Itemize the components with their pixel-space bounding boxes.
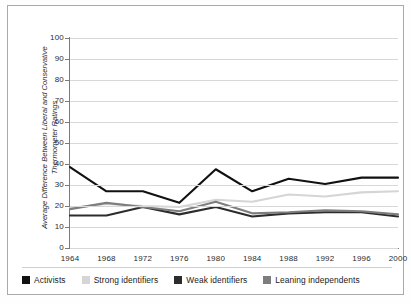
legend-swatch-icon (174, 276, 182, 284)
legend-label: Strong identifiers (94, 275, 159, 285)
gridline (70, 122, 398, 123)
legend-item[interactable]: Leaning independents (263, 275, 359, 285)
legend-item[interactable]: Strong identifiers (82, 275, 159, 285)
gridline (70, 143, 398, 144)
legend-label: Activists (34, 275, 66, 285)
legend-item[interactable]: Activists (22, 275, 66, 285)
chart-figure: Average Difference Between Liberal and C… (0, 0, 411, 304)
legend-swatch-icon (22, 276, 30, 284)
y-axis-tick-mark (65, 80, 69, 81)
y-axis-tick-mark (65, 143, 69, 144)
y-axis-tick-label: 90 (30, 55, 64, 63)
gridline (70, 248, 398, 249)
y-axis-tick-label: 100 (30, 34, 64, 42)
y-axis-tick-mark (65, 164, 69, 165)
y-axis-tick-label: 70 (30, 97, 64, 105)
x-axis-tick-label: 1984 (232, 254, 272, 263)
y-axis-tick-label: 20 (30, 202, 64, 210)
gridline (70, 164, 398, 165)
y-axis-tick-label: 10 (30, 223, 64, 231)
x-axis-tick-label: 1988 (269, 254, 309, 263)
gridline (70, 38, 398, 39)
y-axis-tick-mark (65, 206, 69, 207)
x-axis-tick-label: 1992 (305, 254, 345, 263)
legend-label: Weak identifiers (186, 275, 247, 285)
gridline (70, 206, 398, 207)
x-axis-tick-label: 2000 (378, 254, 411, 263)
chart-legend: ActivistsStrong identifiersWeak identifi… (22, 272, 392, 288)
gridline (70, 59, 398, 60)
y-axis-tick-mark (65, 38, 69, 39)
y-axis-tick-label: 0 (30, 244, 64, 252)
y-axis-tick-mark (65, 185, 69, 186)
y-axis-tick-mark (65, 227, 69, 228)
x-axis-tick-label: 1976 (159, 254, 199, 263)
y-axis-tick-label: 30 (30, 181, 64, 189)
y-axis-tick-mark (65, 101, 69, 102)
y-axis-tick-mark (65, 59, 69, 60)
legend-item[interactable]: Weak identifiers (174, 275, 247, 285)
gridline (70, 80, 398, 81)
y-axis-tick-mark (65, 248, 69, 249)
x-axis-tick-label: 1964 (50, 254, 90, 263)
plot-area (70, 38, 398, 248)
legend-label: Leaning independents (275, 275, 359, 285)
legend-separator (22, 267, 392, 268)
gridline (70, 227, 398, 228)
gridline (70, 101, 398, 102)
y-axis-tick-label: 40 (30, 160, 64, 168)
x-axis-tick-label: 1996 (342, 254, 382, 263)
x-axis-tick-label: 1972 (123, 254, 163, 263)
x-axis-tick-label: 1980 (196, 254, 236, 263)
y-axis-tick-label: 50 (30, 139, 64, 147)
y-axis-tick-label: 60 (30, 118, 64, 126)
x-axis-tick-label: 1968 (86, 254, 126, 263)
gridline (70, 185, 398, 186)
chart-frame: Average Difference Between Liberal and C… (7, 5, 404, 295)
y-axis-tick-mark (65, 122, 69, 123)
legend-swatch-icon (263, 276, 271, 284)
legend-swatch-icon (82, 276, 90, 284)
y-axis-tick-label: 80 (30, 76, 64, 84)
